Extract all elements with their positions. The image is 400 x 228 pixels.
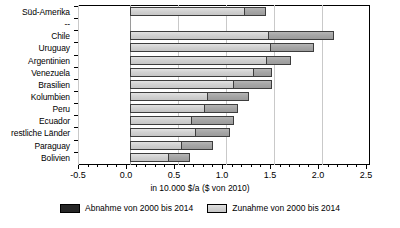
y-axis-labels: Süd-Amerika -- Chile Uruguay Argentinien…: [0, 6, 74, 164]
bar-segment-base: [130, 68, 253, 77]
y-label-brasilien: Brasilien: [0, 79, 74, 91]
bar-segment-base: [130, 92, 207, 101]
y-label-ecuador: Ecuador: [0, 115, 74, 127]
bar-segment-increase: [181, 141, 213, 150]
x-tick-minor: [145, 165, 146, 167]
bar-argentinien: [130, 56, 291, 65]
y-label-separator: --: [0, 18, 74, 30]
bar-row: [78, 152, 369, 164]
bar-segment-increase: [168, 153, 190, 162]
x-tick-minor: [308, 165, 309, 167]
chart-root: Süd-Amerika -- Chile Uruguay Argentinien…: [0, 0, 400, 228]
bar-row: [78, 115, 369, 127]
x-tick-minor: [88, 165, 89, 167]
y-label-text: Kolumbien: [31, 92, 70, 102]
x-tick-label: 2.5: [360, 170, 373, 180]
x-tick-minor: [184, 165, 185, 167]
bar-restliche-l-nder: [130, 128, 230, 137]
bar-segment-base: [130, 56, 266, 65]
x-tick-major: [78, 165, 79, 169]
bar-row: [78, 42, 369, 54]
bar-ecuador: [130, 116, 234, 125]
x-tick-major: [222, 165, 223, 169]
x-tick-minor: [116, 165, 117, 167]
y-label-text: Chile: [51, 31, 70, 41]
x-tick-label: 1.0: [216, 170, 229, 180]
bar-s-d-amerika: [130, 7, 266, 16]
x-tick-minor: [241, 165, 242, 167]
bar-kolumbien: [130, 92, 249, 101]
y-label-text: Uruguay: [39, 43, 70, 53]
bar-row: [78, 18, 369, 30]
bar-uruguay: [130, 43, 314, 52]
bar-segment-increase: [270, 43, 314, 52]
y-label-text: Ecuador: [39, 116, 70, 126]
bar-segment-increase: [207, 92, 249, 101]
y-label-text: Paraguay: [34, 141, 70, 151]
x-tick-minor: [337, 165, 338, 167]
x-tick-major: [174, 165, 175, 169]
x-tick-minor: [280, 165, 281, 167]
bar-row: [78, 30, 369, 42]
x-tick-minor: [155, 165, 156, 167]
bar-bolivien: [130, 153, 190, 162]
x-tick-label: 1.5: [264, 170, 277, 180]
x-tick-minor: [203, 165, 204, 167]
x-axis-tick-labels: -0.50.00.51.01.52.02.5: [0, 170, 400, 182]
y-label-venezuela: Venezuela: [0, 67, 74, 79]
x-tick-label: 2.0: [312, 170, 325, 180]
y-label-text: Bolivien: [41, 153, 70, 163]
x-tick-major: [318, 165, 319, 169]
x-tick-label: 0.5: [168, 170, 181, 180]
bar-segment-increase: [268, 31, 333, 40]
y-label-kolumbien: Kolumbien: [0, 91, 74, 103]
y-label-text: Argentinien: [28, 56, 70, 66]
y-label-paraguay: Paraguay: [0, 140, 74, 152]
legend-swatch-zunahme: [207, 204, 227, 213]
x-tick-label: -0.5: [70, 170, 86, 180]
bar-row: [78, 79, 369, 91]
legend-label-abnahme: Abnahme von 2000 bis 2014: [85, 203, 193, 213]
bar-segment-base: [130, 104, 204, 113]
x-tick-minor: [193, 165, 194, 167]
chart-legend: Abnahme von 2000 bis 2014 Zunahme von 20…: [0, 203, 400, 213]
legend-swatch-abnahme: [60, 204, 80, 213]
bar-row: [78, 140, 369, 152]
bar-segment-base: [130, 80, 233, 89]
y-label-text: restliche Länder: [11, 128, 70, 138]
bar-brasilien: [130, 80, 272, 89]
bar-segment-increase: [233, 80, 272, 89]
bar-row: [78, 103, 369, 115]
bar-segment-increase: [204, 104, 238, 113]
y-label-text: Süd-Amerika: [22, 7, 70, 17]
bar-row: [78, 67, 369, 79]
bar-segment-base: [130, 7, 244, 16]
bar-segment-increase: [266, 56, 291, 65]
bar-peru: [130, 104, 238, 113]
y-label-restliche-laender: restliche Länder: [0, 127, 74, 139]
bar-row: [78, 55, 369, 67]
x-tick-major: [366, 165, 367, 169]
bar-segment-base: [130, 43, 270, 52]
bar-segment-base: [130, 116, 191, 125]
x-tick-minor: [97, 165, 98, 167]
x-tick-minor: [136, 165, 137, 167]
y-label-uruguay: Uruguay: [0, 42, 74, 54]
y-label-text: Venezuela: [31, 68, 70, 78]
x-tick-minor: [260, 165, 261, 167]
bar-segment-increase: [195, 128, 230, 137]
legend-label-zunahme: Zunahme von 2000 bis 2014: [232, 203, 340, 213]
x-tick-minor: [107, 165, 108, 167]
bar-segment-base: [130, 31, 268, 40]
y-label-peru: Peru: [0, 103, 74, 115]
bar-segment-base: [130, 153, 168, 162]
y-label-text: Brasilien: [38, 80, 70, 90]
x-tick-minor: [164, 165, 165, 167]
x-tick-major: [270, 165, 271, 169]
x-axis-title: in 10.000 $/a ($ von 2010): [0, 183, 400, 193]
bar-row: [78, 127, 369, 139]
y-label-text: Peru: [52, 104, 70, 114]
y-label-chile: Chile: [0, 30, 74, 42]
bar-paraguay: [130, 141, 213, 150]
legend-item-zunahme: Zunahme von 2000 bis 2014: [207, 203, 340, 213]
